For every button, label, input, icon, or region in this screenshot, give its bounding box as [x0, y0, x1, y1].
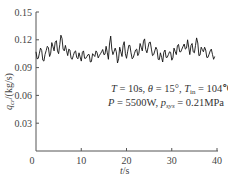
y-tick-label: 0.03	[15, 118, 33, 129]
line-chart: 0.030.060.090.120.15 010203040 qcr/(kg/s…	[0, 0, 228, 180]
annotation-line-1: T = 10s, θ = 15°, Tin = 104℃	[111, 83, 228, 96]
y-tick-label: 0.09	[15, 62, 33, 73]
y-tick-label: 0.06	[15, 90, 33, 101]
x-axis-title: t/s	[120, 165, 130, 176]
axes	[36, 12, 218, 151]
y-tick-label: 0.15	[15, 7, 33, 18]
x-tick-label: 30	[167, 155, 177, 166]
data-series-line	[36, 35, 215, 63]
annotation-line-2: P = 5500W, psys = 0.21MPa	[107, 97, 224, 110]
x-tick-label: 10	[76, 155, 86, 166]
x-tick-label: 0	[30, 155, 35, 166]
x-tick-label: 40	[212, 155, 222, 166]
y-tick-label: 0.12	[15, 34, 33, 45]
y-ticks: 0.030.060.090.120.15	[15, 7, 40, 129]
